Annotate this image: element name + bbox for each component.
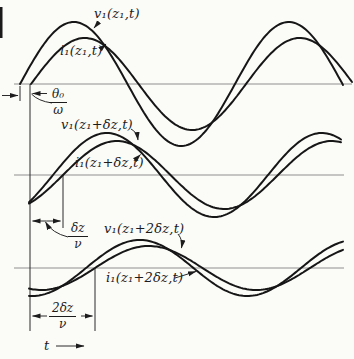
v-denominator-2: ν xyxy=(49,317,76,331)
i1-z12dz-label: i₁(z₁+2δz,t) xyxy=(106,270,183,285)
dz-over-v-fraction: δz ν xyxy=(68,222,88,251)
i1-z1-label: i₁(z₁,t) xyxy=(60,43,103,58)
v-denominator: ν xyxy=(68,237,88,251)
theta0-omega-fraction: θ₀ ω xyxy=(49,88,67,117)
two-dz-over-v-fraction: 2δz ν xyxy=(49,302,76,331)
waveform-diagram: v₁(z₁,t) i₁(z₁,t) v₁(z₁+δz,t) i₁(z₁+δz,t… xyxy=(0,0,354,359)
dz-numerator: δz xyxy=(68,222,88,237)
v1-z1-label: v₁(z₁,t) xyxy=(94,6,140,21)
v1-z12dz-leader xyxy=(178,234,182,248)
v1-z1-leader xyxy=(94,22,99,28)
omega-denominator: ω xyxy=(49,103,67,117)
v1-z1dz-label: v₁(z₁+δz,t) xyxy=(61,117,133,132)
time-axis-label: t xyxy=(44,338,49,353)
two-dz-numerator: 2δz xyxy=(49,302,76,317)
v1-z12dz-label: v₁(z₁+2δz,t) xyxy=(104,221,184,236)
dz-leader-line xyxy=(46,222,69,237)
theta0-numerator: θ₀ xyxy=(49,88,67,103)
i1-z1dz-label: i₁(z₁+δz,t) xyxy=(75,155,144,170)
page-edge-artifact xyxy=(0,7,3,38)
